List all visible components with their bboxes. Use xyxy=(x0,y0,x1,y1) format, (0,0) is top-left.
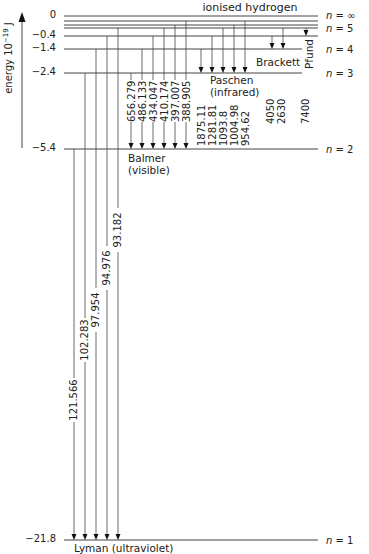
wavelength-label: 1093.8 xyxy=(218,111,229,146)
transitions: 121.566102.28397.95494.97693.182656.2794… xyxy=(68,21,311,540)
wavelength-label: 4050 xyxy=(265,99,276,124)
series-name-pfund: Pfund xyxy=(303,39,315,69)
energy-value: 0 xyxy=(50,9,56,20)
arrow-down-icon xyxy=(129,143,134,149)
arrow-down-icon xyxy=(232,67,237,73)
energy-value: −21.8 xyxy=(25,533,56,544)
series-region-balmer: (visible) xyxy=(128,164,170,176)
arrow-down-icon xyxy=(281,43,286,49)
arrow-down-icon xyxy=(221,67,226,73)
wavelength-label: 102.283 xyxy=(79,319,90,360)
series-name-brackett: Brackett xyxy=(256,56,300,68)
series-region-paschen: (infrared) xyxy=(210,86,259,98)
energy-axis: energy 10−19 J xyxy=(2,12,26,148)
wavelength-label: 1281.81 xyxy=(207,105,218,146)
wavelength-label: 1004.98 xyxy=(229,105,240,146)
arrow-down-icon xyxy=(151,143,156,149)
level-label: n = 1 xyxy=(326,535,353,546)
energy-value: −1.4 xyxy=(32,42,56,53)
arrow-down-icon xyxy=(243,67,248,73)
energy-value: −0.4 xyxy=(32,29,56,40)
arrow-down-icon xyxy=(72,534,77,540)
level-label: n = ∞ xyxy=(326,10,355,21)
wavelength-label: 388.905 xyxy=(181,81,192,122)
wavelength-label: 954.62 xyxy=(240,111,251,146)
series-name-paschen: Paschen xyxy=(210,74,253,86)
diagram-title: ionised hydrogen xyxy=(203,1,298,14)
level-label: n = 2 xyxy=(326,144,353,155)
wavelength-label: 1875.11 xyxy=(196,105,207,146)
energy-level-n-2: −5.4n = 2 xyxy=(32,142,354,155)
wavelength-label: 434.047 xyxy=(148,81,159,122)
wavelength-label: 397.007 xyxy=(170,81,181,122)
wavelength-label: 94.976 xyxy=(101,251,112,286)
wavelength-label: 97.954 xyxy=(90,293,101,328)
diagram-canvas: ionised hydrogen energy 10−19 J 0n = ∞−0… xyxy=(0,0,369,554)
arrow-down-icon xyxy=(304,30,309,36)
wavelength-label: 410.174 xyxy=(159,81,170,122)
hydrogen-energy-level-diagram: ionised hydrogen energy 10−19 J 0n = ∞−0… xyxy=(0,0,369,554)
level-label: n = 4 xyxy=(326,44,353,55)
arrow-up-icon xyxy=(19,12,26,22)
level-label: n = 5 xyxy=(326,23,353,34)
series-brackett: 40502630 xyxy=(265,28,287,124)
arrow-down-icon xyxy=(83,534,88,540)
arrow-down-icon xyxy=(199,67,204,73)
arrow-down-icon xyxy=(173,143,178,149)
arrow-down-icon xyxy=(270,43,275,49)
wavelength-label: 486.133 xyxy=(137,81,148,122)
wavelength-label: 2630 xyxy=(276,99,287,124)
arrow-down-icon xyxy=(94,534,99,540)
arrow-down-icon xyxy=(210,67,215,73)
wavelength-label: 121.566 xyxy=(68,379,79,420)
energy-value: −5.4 xyxy=(32,142,56,153)
series-name-lyman: Lyman (ultraviolet) xyxy=(74,542,173,554)
wavelength-label: 656.279 xyxy=(126,81,137,122)
arrow-down-icon xyxy=(140,143,145,149)
axis-label: energy 10−19 J xyxy=(2,22,14,94)
series-name-balmer: Balmer xyxy=(128,152,166,164)
arrow-down-icon xyxy=(184,143,189,149)
arrow-down-icon xyxy=(116,534,121,540)
arrow-down-icon xyxy=(105,534,110,540)
series-balmer: 656.279486.133434.047410.174397.007388.9… xyxy=(126,21,192,149)
wavelength-label: 7400 xyxy=(300,99,311,124)
series-lyman: 121.566102.28397.95494.97693.182 xyxy=(68,28,123,540)
level-label: n = 3 xyxy=(326,68,353,79)
arrow-down-icon xyxy=(162,143,167,149)
energy-value: −2.4 xyxy=(32,66,56,77)
wavelength-label: 93.182 xyxy=(112,213,123,248)
